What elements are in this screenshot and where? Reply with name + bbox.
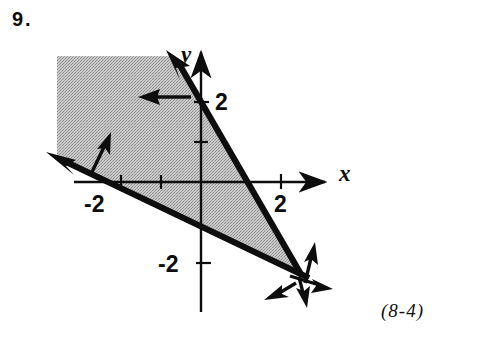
y-tick-label-2: 2 [215,89,228,115]
x-tick-label-2: 2 [274,191,287,217]
x-tick-label-minus2: -2 [84,191,104,217]
intersection-arrow-down-left [264,283,296,300]
solution-region [57,56,295,268]
section-reference: (8-4) [381,300,424,322]
y-axis-label: y [178,42,192,67]
x-axis-label: x [338,161,351,186]
intersection-arrow-up [304,242,318,283]
y-tick-label-minus2: -2 [158,251,178,277]
solution-region-fill [57,56,295,268]
figure-root: 9. [0,0,477,352]
